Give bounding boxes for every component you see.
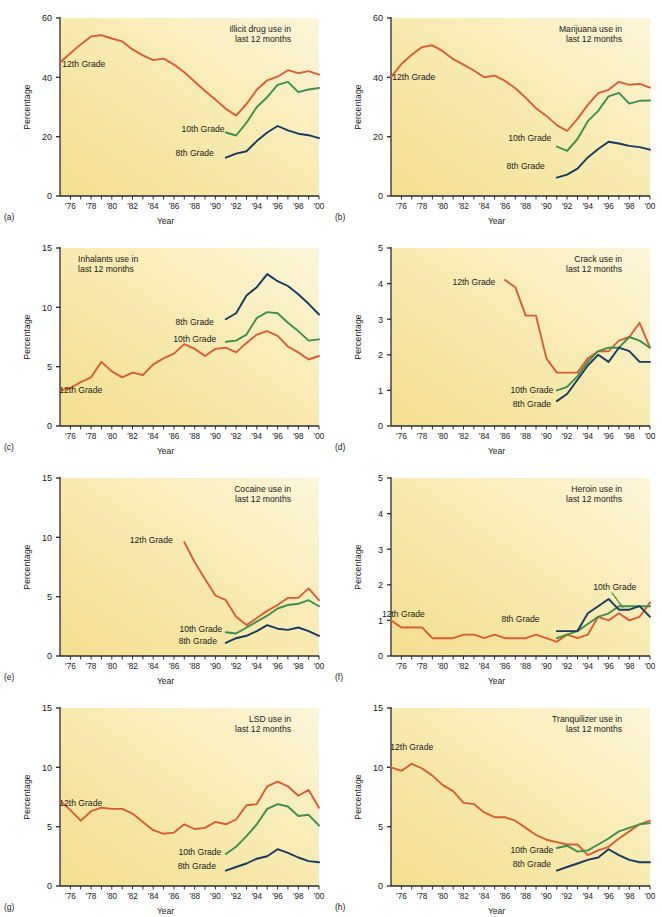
series-label-grade8: 8th Grade [178, 861, 216, 871]
x-tick-label: '92 [562, 432, 573, 441]
x-tick-label: '82 [458, 892, 469, 901]
x-tick-label: '86 [169, 892, 180, 901]
y-tick-label: 10 [42, 763, 52, 773]
y-axis-label: Percentage [353, 314, 363, 359]
panel-title-line2: last 12 months [235, 34, 291, 44]
panel-title-line2: last 12 months [78, 264, 134, 274]
x-tick-label: '96 [272, 202, 283, 211]
y-tick-label: 0 [378, 421, 383, 431]
x-tick-label: '78 [86, 662, 97, 671]
x-tick-label: '76 [396, 202, 407, 211]
x-tick-label: '84 [148, 662, 159, 671]
x-tick-label: '86 [500, 892, 511, 901]
plot-background [60, 18, 319, 196]
y-tick-label: 5 [378, 243, 383, 253]
panel-title-line1: Marijuana use in [559, 24, 622, 34]
x-tick-label: '88 [520, 432, 531, 441]
series-label-grade10: 10th Grade [510, 845, 553, 855]
y-tick-label: 4 [378, 279, 383, 289]
x-tick-label: '82 [127, 432, 138, 441]
series-label-grade8: 8th Grade [513, 859, 551, 869]
x-tick-label: '86 [169, 202, 180, 211]
x-tick-label: '98 [624, 892, 635, 901]
x-tick-label: '94 [251, 662, 262, 671]
x-tick-label: '88 [189, 892, 200, 901]
panel-title-line1: LSD use in [249, 714, 291, 724]
x-tick-label: '88 [189, 432, 200, 441]
x-tick-label: '90 [541, 662, 552, 671]
x-tick-label: '76 [396, 892, 407, 901]
series-label-grade12: 12th Grade [62, 59, 105, 69]
series-label-grade10: 10th Grade [510, 385, 553, 395]
y-tick-label: 15 [373, 703, 383, 713]
x-axis-label: Year [0, 446, 331, 456]
series-label-grade8: 8th Grade [513, 399, 551, 409]
series-label-grade10: 10th Grade [593, 582, 636, 592]
x-tick-label: '86 [500, 432, 511, 441]
panel-title-line2: last 12 months [566, 34, 622, 44]
x-tick-label: '84 [479, 432, 490, 441]
x-tick-label: '84 [148, 892, 159, 901]
x-tick-label: '80 [437, 892, 448, 901]
x-tick-label: '88 [520, 662, 531, 671]
series-label-grade10: 10th Grade [179, 624, 222, 634]
x-tick-label: '82 [458, 202, 469, 211]
y-tick-label: 20 [42, 132, 52, 142]
y-tick-label: 5 [47, 822, 52, 832]
x-tick-label: '96 [272, 892, 283, 901]
panel-h: 051015'76'78'80'82'84'86'88'90'92'94'96'… [331, 690, 662, 917]
x-tick-label: '88 [520, 202, 531, 211]
x-tick-label: '94 [251, 892, 262, 901]
panel-letter: (e) [4, 672, 14, 682]
y-tick-label: 40 [42, 73, 52, 83]
x-tick-label: '78 [417, 662, 428, 671]
x-tick-label: '92 [562, 202, 573, 211]
y-tick-label: 15 [42, 243, 52, 253]
series-label-grade8: 8th Grade [179, 636, 217, 646]
panel-title-line2: last 12 months [566, 264, 622, 274]
x-tick-label: '82 [127, 202, 138, 211]
x-tick-label: '82 [127, 892, 138, 901]
x-tick-label: '76 [396, 662, 407, 671]
figure-panel-grid: 0204060'76'78'80'82'84'86'88'90'92'94'96… [0, 0, 662, 917]
y-tick-label: 0 [378, 651, 383, 661]
x-tick-label: '96 [272, 662, 283, 671]
y-axis-label: Percentage [353, 84, 363, 129]
x-tick-label: '96 [272, 432, 283, 441]
x-tick-label: '86 [500, 662, 511, 671]
x-tick-label: '80 [106, 202, 117, 211]
y-tick-label: 1 [378, 386, 383, 396]
panel-plot: 012345'76'78'80'82'84'86'88'90'92'94'96'… [331, 460, 662, 690]
x-tick-label: '90 [541, 892, 552, 901]
x-tick-label: '98 [293, 892, 304, 901]
x-tick-label: '86 [169, 432, 180, 441]
x-tick-label: '94 [582, 432, 593, 441]
series-label-grade8: 8th Grade [176, 317, 214, 327]
x-tick-label: '92 [231, 662, 242, 671]
panel-letter: (a) [4, 212, 14, 222]
y-tick-label: 4 [378, 509, 383, 519]
x-tick-label: '76 [396, 432, 407, 441]
panel-c: 051015'76'78'80'82'84'86'88'90'92'94'96'… [0, 230, 331, 460]
x-tick-label: '88 [189, 662, 200, 671]
y-tick-label: 5 [47, 362, 52, 372]
x-tick-label: '78 [417, 892, 428, 901]
plot-background [391, 478, 650, 656]
x-tick-label: '96 [603, 202, 614, 211]
x-tick-label: '94 [251, 432, 262, 441]
x-tick-label: '82 [458, 662, 469, 671]
series-label-grade12: 12th Grade [59, 798, 102, 808]
y-axis-label: Percentage [22, 314, 32, 359]
x-tick-label: '00 [314, 662, 325, 671]
panel-title-line1: Cocaine use in [234, 484, 291, 494]
panel-letter: (c) [4, 442, 14, 452]
panel-title-line1: Tranquilizer use in [552, 714, 622, 724]
x-axis-label: Year [331, 446, 662, 456]
panel-letter: (g) [4, 902, 14, 912]
x-tick-label: '94 [582, 892, 593, 901]
y-tick-label: 10 [373, 763, 383, 773]
x-tick-label: '00 [645, 202, 656, 211]
x-tick-label: '84 [479, 662, 490, 671]
series-label-grade10: 10th Grade [508, 133, 551, 143]
x-tick-label: '80 [437, 202, 448, 211]
